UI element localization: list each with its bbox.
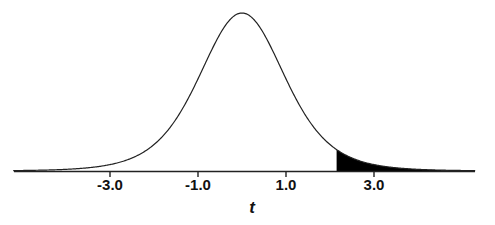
x-tick-label: 3.0 <box>364 176 385 193</box>
x-tick-label: -1.0 <box>185 176 211 193</box>
x-tick-label: 1.0 <box>276 176 297 193</box>
x-axis-title: t <box>249 198 255 218</box>
x-tick-label: -3.0 <box>97 176 123 193</box>
density-curve <box>13 13 475 171</box>
t-distribution-chart <box>0 0 495 225</box>
